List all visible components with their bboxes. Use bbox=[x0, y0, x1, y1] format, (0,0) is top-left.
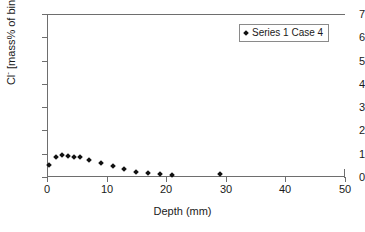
x-axis-tick-label: 10 bbox=[87, 184, 127, 195]
x-axis-tick bbox=[166, 177, 167, 182]
y-axis-title-superscript: - bbox=[3, 72, 12, 75]
y-axis-title-wrapper: Cl- [mass% of binder] bbox=[3, 0, 17, 113]
y-axis-title-prefix: Cl bbox=[5, 75, 17, 85]
y-axis-tick bbox=[42, 130, 47, 131]
x-axis-title: Depth (mm) bbox=[0, 205, 365, 217]
x-axis-tick bbox=[226, 177, 227, 182]
chart-container: 01234567 01020304050 Series 1 Case 4 Cl-… bbox=[0, 0, 365, 232]
y-axis-tick bbox=[42, 61, 47, 62]
y-axis-title-suffix: [mass% of binder] bbox=[5, 0, 17, 72]
legend-entry-label: Series 1 Case 4 bbox=[252, 27, 323, 38]
y-axis-tick bbox=[42, 154, 47, 155]
y-axis-tick bbox=[42, 84, 47, 85]
x-axis-tick-label: 30 bbox=[206, 184, 246, 195]
x-axis-tick bbox=[285, 177, 286, 182]
x-axis-tick-label: 0 bbox=[27, 184, 67, 195]
x-axis-tick-label: 20 bbox=[146, 184, 186, 195]
y-axis-tick bbox=[42, 14, 47, 15]
y-axis-tick-label: 0 bbox=[327, 172, 365, 183]
y-axis-tick bbox=[42, 107, 47, 108]
y-axis-tick-label: 2 bbox=[327, 125, 365, 136]
y-axis-tick-label: 6 bbox=[327, 32, 365, 43]
y-axis-tick-label: 1 bbox=[327, 149, 365, 160]
y-axis-tick-label: 3 bbox=[327, 102, 365, 113]
x-axis-tick bbox=[107, 177, 108, 182]
y-axis-tick-label: 5 bbox=[327, 56, 365, 67]
chart-legend: Series 1 Case 4 bbox=[239, 24, 329, 42]
y-axis-tick bbox=[42, 37, 47, 38]
x-axis-tick-label: 50 bbox=[325, 184, 365, 195]
diamond-marker-icon bbox=[243, 30, 249, 36]
y-axis-title: Cl- [mass% of binder] bbox=[3, 0, 17, 85]
y-axis-tick-label: 4 bbox=[327, 79, 365, 90]
y-axis-tick-label: 7 bbox=[327, 9, 365, 20]
x-axis-tick-label: 40 bbox=[265, 184, 305, 195]
x-axis-tick bbox=[345, 177, 346, 182]
x-axis-tick bbox=[47, 177, 48, 182]
